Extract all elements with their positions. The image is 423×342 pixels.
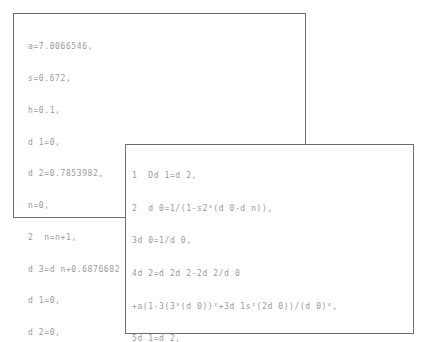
code-listing-card-2: 1 Dd 1=d 2, 2 d 0=1/(1-s2³(d 0-d n)), 3d… xyxy=(125,144,414,334)
code-line: d 1=0, xyxy=(28,296,136,307)
code-line: d 2=0, xyxy=(28,328,136,339)
code-line: 2 n=n+1, xyxy=(28,233,136,244)
code-line: 3d 0=1/d 0, xyxy=(132,236,387,247)
code-line: d 2=0.7853982, xyxy=(28,169,136,180)
code-line: d 1=0, xyxy=(28,138,136,149)
code-listing-1: a=7.0066546, s=0.672, h=0.1, d 1=0, d 2=… xyxy=(28,21,136,342)
code-listing-2: 1 Dd 1=d 2, 2 d 0=1/(1-s2³(d 0-d n)), 3d… xyxy=(132,149,387,342)
code-line: s=0.672, xyxy=(28,74,136,85)
code-line: 5d 1=d 2, xyxy=(132,334,387,342)
code-line: n=0, xyxy=(28,201,136,212)
code-line: 2 d 0=1/(1-s2³(d 0-d n)), xyxy=(132,204,387,215)
code-line: +a(1-3(3³(d 0))²+3d 1s²(2d 0))/(d 0)⁴, xyxy=(132,302,387,313)
code-line: d 3=d n+0.6876682 2, xyxy=(28,265,136,276)
code-line: a=7.0066546, xyxy=(28,42,136,53)
code-line: 1 Dd 1=d 2, xyxy=(132,171,387,182)
code-line: 4d 2=d 2d 2-2d 2/d 0 xyxy=(132,269,387,280)
code-line: h=0.1, xyxy=(28,106,136,117)
